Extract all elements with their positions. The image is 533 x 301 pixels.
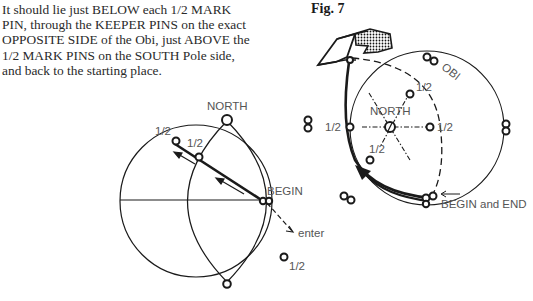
half-mark-pin-icon: [367, 157, 374, 164]
diagram-canvas: NORTH 1/2 1/2 BEGIN enter 1/2: [0, 0, 533, 301]
arrow-icon: [174, 152, 244, 194]
half-mark-label: 1/2: [289, 260, 305, 272]
north-label: NORTH: [207, 100, 248, 112]
keeper-pin-icon: [348, 197, 355, 204]
half-mark-pin-icon: [281, 254, 288, 261]
keeper-pin-icon: [305, 117, 312, 124]
north-pin-icon: [222, 115, 232, 125]
begin-label: BEGIN: [267, 185, 303, 197]
right-globe: [346, 51, 504, 205]
half-mark-label: 1/2: [187, 137, 203, 149]
keeper-pin-icon: [424, 54, 431, 61]
half-mark-label: 1/2: [325, 121, 341, 133]
begin-pin-icon: [266, 198, 272, 204]
half-mark-label: 1/2: [437, 121, 453, 133]
half-mark-pin-icon: [427, 124, 434, 131]
half-mark-pin-icon: [173, 138, 180, 145]
obi-ribbon-icon: [318, 29, 392, 65]
enter-label: enter: [298, 227, 324, 239]
north-label: NORTH: [370, 105, 411, 117]
half-mark-pin-icon: [196, 154, 203, 161]
keeper-pin-icon: [431, 58, 438, 65]
begin-end-pin-icon: [423, 201, 429, 207]
keeper-pin-icon: [347, 57, 353, 63]
half-mark-pin-icon: [347, 124, 354, 131]
keeper-pin-icon: [305, 125, 312, 132]
half-mark-label: 1/2: [416, 81, 432, 93]
dash-dot-line: [380, 92, 410, 147]
begin-end-pin-icon: [430, 193, 437, 200]
begin-end-label: BEGIN and END: [441, 198, 527, 210]
keeper-pin-icon: [341, 193, 348, 200]
keeper-pin-icon: [503, 128, 510, 135]
obi-label: OBI: [440, 61, 463, 83]
south-pin-icon: [223, 280, 231, 288]
half-mark-label: 1/2: [155, 125, 171, 137]
half-mark-label: 1/2: [369, 143, 385, 155]
keeper-pin-icon: [503, 121, 510, 128]
half-mark-pin-icon: [407, 91, 414, 98]
